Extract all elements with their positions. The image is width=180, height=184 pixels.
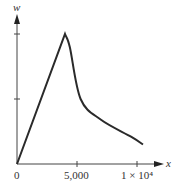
x-tick-label-5000: 5,000 (64, 169, 89, 181)
data-line (17, 34, 143, 164)
x-axis-label: x (166, 157, 171, 169)
x-tick-label-0: 0 (14, 169, 20, 181)
x-axis-arrow-icon (154, 161, 164, 167)
chart: w x 0 5,000 1 × 10⁴ (0, 0, 180, 184)
y-axis-label: w (13, 1, 20, 13)
x-tick-label-10000: 1 × 10⁴ (121, 169, 153, 181)
y-axis-arrow-icon (14, 14, 20, 24)
plot-area (0, 0, 180, 184)
